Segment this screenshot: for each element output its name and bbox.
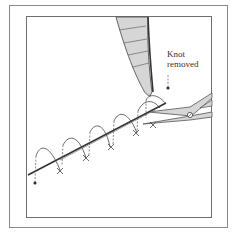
knot-removed-label: Knot removed	[167, 49, 199, 69]
incision-line	[28, 103, 166, 175]
label-line-2: removed	[167, 59, 199, 69]
suture-cross-marks	[57, 122, 156, 174]
suture-removal-illustration	[0, 0, 236, 235]
running-suture-loops	[36, 96, 166, 170]
suture-end-dot	[33, 181, 36, 184]
knot-marker	[166, 86, 169, 89]
forceps-icon	[116, 17, 153, 96]
label-line-1: Knot	[167, 49, 199, 59]
scissors-icon	[143, 93, 212, 124]
